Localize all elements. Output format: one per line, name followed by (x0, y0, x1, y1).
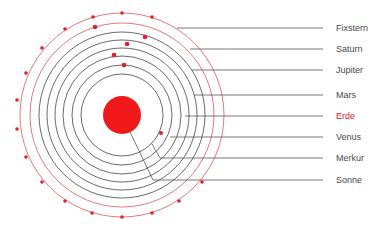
label-jupiter: Jupiter (336, 65, 363, 75)
label-merkur: Merkur (336, 153, 364, 163)
label-erde: Erde (336, 111, 355, 121)
label-saturn: Saturn (336, 44, 363, 54)
planet-dot (125, 42, 130, 47)
label-fixstern: Fixstern (336, 23, 368, 33)
planet-dot (143, 35, 148, 40)
sun (103, 96, 141, 134)
leader-lines (130, 28, 323, 180)
planet-dot (159, 131, 163, 135)
planet-dot (93, 25, 98, 30)
leader-line-merkur (152, 144, 323, 158)
label-sonne: Sonne (336, 175, 362, 185)
planet-dot (112, 53, 117, 58)
geocentric-orbit-diagram (0, 0, 382, 234)
planet-dot (122, 63, 127, 68)
label-venus: Venus (336, 132, 361, 142)
label-mars: Mars (336, 90, 356, 100)
